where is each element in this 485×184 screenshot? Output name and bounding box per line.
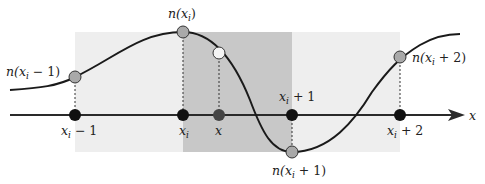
sample-point-n-xi xyxy=(177,26,189,38)
query-point-x xyxy=(213,109,225,121)
label-xi-plus-2: xi + 2 xyxy=(387,123,423,140)
label-xi-plus-1: xi + 1 xyxy=(279,89,315,106)
grid-point-xi xyxy=(177,109,189,121)
interpolated-point-n-x xyxy=(213,47,225,59)
sample-point-n-xi-plus-2 xyxy=(394,51,406,63)
sample-point-n-xi-minus-1 xyxy=(69,71,81,83)
label-n-xi-minus-1: n(xi − 1) xyxy=(6,64,60,81)
label-xi-minus-1: xi − 1 xyxy=(61,123,97,140)
label-n-xi-plus-2: n(xi + 2) xyxy=(412,50,466,67)
label-n-xi-plus-1: n(xi + 1) xyxy=(272,163,326,180)
interpolation-diagram: x xi − 1 xi x xi + 1 xi + 2 n(xi − 1) n(… xyxy=(0,0,485,184)
label-n-xi: n(xi) xyxy=(168,6,196,23)
inner-interval-region xyxy=(183,32,292,152)
sample-point-n-xi-plus-1 xyxy=(286,146,298,158)
label-x: x xyxy=(215,123,222,138)
axis-label: x xyxy=(469,108,476,123)
grid-point-xi-plus-1 xyxy=(286,109,298,121)
grid-point-xi-plus-2 xyxy=(394,109,406,121)
grid-point-xi-minus-1 xyxy=(69,109,81,121)
